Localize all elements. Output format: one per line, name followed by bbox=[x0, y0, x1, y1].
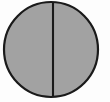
bisected-circle-diagram bbox=[0, 0, 110, 102]
figure-canvas: Bisected circle A gray filled circle out… bbox=[0, 0, 110, 102]
circle-shape bbox=[4, 2, 98, 97]
